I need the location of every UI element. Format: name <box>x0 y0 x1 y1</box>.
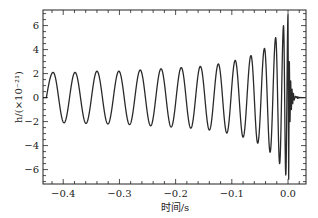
y-tick-label: −6 <box>24 164 39 175</box>
y-tick-label: 0 <box>33 92 39 103</box>
x-tick-label: 0.0 <box>280 188 296 199</box>
waveform-line <box>43 15 305 179</box>
y-tick-label: −4 <box>24 140 39 151</box>
x-axis-label: 时间/s <box>161 201 190 213</box>
y-axis-label: h/(×10⁻²¹) <box>13 71 24 123</box>
x-tick-label: −0.3 <box>107 188 131 199</box>
y-tick-label: −2 <box>24 116 39 127</box>
x-tick-label: −0.1 <box>220 188 244 199</box>
x-tick-labels: −0.4−0.3−0.2−0.10.0 <box>51 188 296 199</box>
plot-frame <box>43 10 306 184</box>
y-tick-label: 6 <box>33 20 39 31</box>
x-tick-label: −0.4 <box>51 188 75 199</box>
y-tick-labels: −6−4−20246 <box>24 20 39 175</box>
x-tick-label: −0.2 <box>163 188 187 199</box>
chart: −0.4−0.3−0.2−0.10.0 −6−4−20246 时间/s h/(×… <box>0 0 318 218</box>
y-tick-label: 4 <box>33 44 39 55</box>
y-tick-label: 2 <box>33 68 39 79</box>
axis-ticks <box>43 10 306 184</box>
